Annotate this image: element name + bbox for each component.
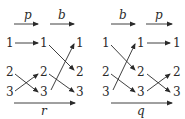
label-b-left: b bbox=[58, 8, 66, 22]
label-p-left: p bbox=[24, 8, 32, 22]
node: 3 bbox=[173, 85, 181, 99]
permutation-composition-diagram: p b r 1 2 3 1 2 3 1 2 3 b p q 1 2 3 1 2 … bbox=[0, 0, 185, 119]
node: 3 bbox=[76, 85, 84, 99]
node: 2 bbox=[76, 65, 84, 79]
node: 1 bbox=[173, 36, 181, 50]
node: 2 bbox=[102, 65, 110, 79]
label-b-right: b bbox=[119, 8, 127, 22]
label-r: r bbox=[41, 104, 48, 118]
node: 2 bbox=[40, 65, 48, 79]
node: 2 bbox=[6, 65, 14, 79]
node: 3 bbox=[137, 85, 145, 99]
node: 1 bbox=[76, 36, 84, 50]
node: 1 bbox=[40, 36, 48, 50]
node: 1 bbox=[137, 36, 145, 50]
label-p-right: p bbox=[155, 8, 163, 22]
node: 1 bbox=[6, 36, 14, 50]
node: 2 bbox=[173, 65, 181, 79]
node: 2 bbox=[137, 65, 145, 79]
label-q: q bbox=[137, 104, 145, 118]
node: 3 bbox=[40, 85, 48, 99]
node: 1 bbox=[102, 36, 110, 50]
node: 3 bbox=[6, 85, 14, 99]
node: 3 bbox=[102, 85, 110, 99]
